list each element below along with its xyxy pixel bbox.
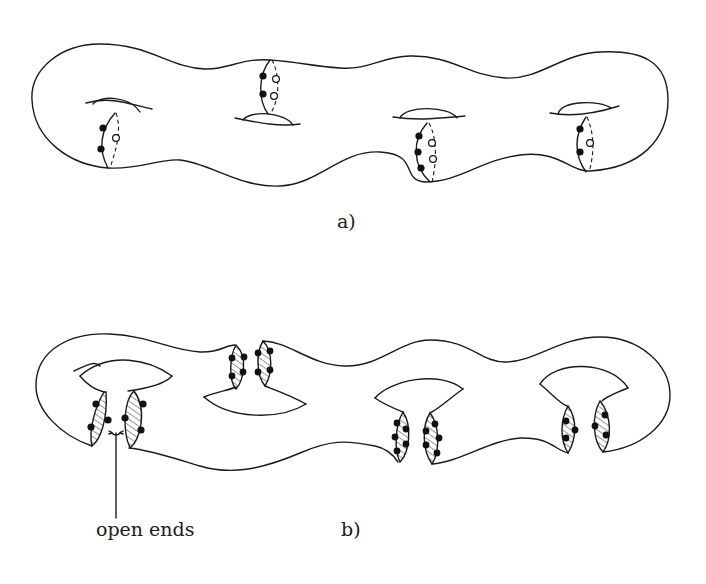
panel-b-inner-arcs [74, 360, 628, 415]
panel-b-label: b) [341, 518, 361, 540]
panel-a-handle-2 [235, 60, 300, 125]
open-ends-pointer [109, 431, 123, 518]
panel-b-cut-1 [87, 391, 146, 448]
panel-b-cut-2 [229, 341, 274, 389]
panel-a-handle-1 [86, 98, 152, 168]
open-ends-annotation: open ends [96, 518, 195, 540]
panel-b-cut-3 [392, 412, 443, 464]
panel-a-handle-3 [393, 109, 465, 182]
panel-a-label: a) [337, 210, 356, 232]
panel-b-cut-4 [562, 401, 609, 453]
panel-a-handle-4 [550, 103, 619, 172]
diagram-canvas [0, 0, 706, 584]
